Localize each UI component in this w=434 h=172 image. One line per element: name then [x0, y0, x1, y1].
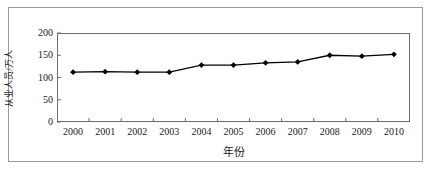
x-tick-label: 2000: [63, 126, 83, 137]
x-tick-label: 2005: [224, 126, 244, 137]
x-tick-label: 2010: [384, 126, 404, 137]
x-tick-label: 2008: [320, 126, 340, 137]
x-tick-label: 2006: [256, 126, 276, 137]
x-tick-label: 2009: [352, 126, 372, 137]
x-axis-title: 年份: [57, 143, 410, 159]
x-tick-label: 2002: [127, 126, 147, 137]
chart-figure: 050100150200 200020012002200320042005200…: [0, 0, 434, 172]
x-tick-label: 2003: [159, 126, 179, 137]
x-tick-label: 2007: [288, 126, 308, 137]
x-tick-label: 2001: [95, 126, 115, 137]
y-axis-title: 从业人员/万人: [2, 27, 15, 131]
x-tick-label: 2004: [191, 126, 211, 137]
